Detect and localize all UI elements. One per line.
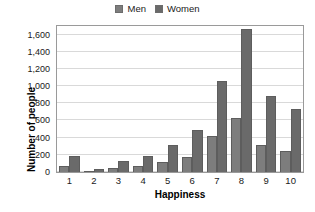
bar-women-5[interactable] [168,145,178,172]
bar-women-2[interactable] [94,169,104,172]
y-tick-label: 1,600 [27,30,50,39]
x-tick-label-9: 9 [254,175,279,187]
bar-group-6 [180,26,205,172]
bar-group-2 [82,26,107,172]
bar-men-5[interactable] [157,162,167,172]
bar-women-1[interactable] [69,156,79,172]
y-tick-label: 200 [35,150,50,159]
bar-groups [57,26,303,172]
bar-group-3 [106,26,131,172]
x-axis-ticks: 12345678910 [57,175,303,187]
bar-group-10 [278,26,303,172]
legend-item-men[interactable]: Men [115,4,145,14]
x-tick-label-4: 4 [131,175,156,187]
x-tick-label-2: 2 [82,175,107,187]
bar-men-4[interactable] [133,166,143,172]
bar-group-8 [229,26,254,172]
y-tick-label: 400 [35,133,50,142]
x-tick-label-7: 7 [205,175,230,187]
chart-legend: MenWomen [0,4,315,14]
legend-swatch-women [155,5,163,13]
bar-group-1 [57,26,82,172]
bar-men-10[interactable] [280,151,290,172]
bar-group-4 [131,26,156,172]
bar-chart: MenWomen 02004006008001,0001,2001,4001,6… [0,0,315,212]
y-tick-label: 600 [35,116,50,125]
legend-swatch-men [115,5,123,13]
bar-women-6[interactable] [192,130,202,172]
x-tick-label-8: 8 [229,175,254,187]
bar-group-5 [155,26,180,172]
bar-group-9 [254,26,279,172]
x-tick-label-3: 3 [106,175,131,187]
x-tick-label-10: 10 [278,175,303,187]
x-tick-label-6: 6 [180,175,205,187]
bar-men-6[interactable] [182,157,192,172]
y-axis-title: Number of people [26,56,37,204]
y-tick-label: 0 [45,168,50,177]
x-axis-title: Happiness [56,189,304,200]
bar-men-1[interactable] [59,166,69,172]
bar-men-8[interactable] [231,118,241,172]
bar-women-10[interactable] [291,109,301,172]
bar-men-9[interactable] [256,145,266,172]
legend-label-men: Men [127,4,145,14]
y-tick-label: 800 [35,99,50,108]
bar-women-4[interactable] [143,156,153,172]
x-tick-label-5: 5 [155,175,180,187]
legend-label-women: Women [167,4,200,14]
bar-women-8[interactable] [241,29,251,172]
x-tick-label-1: 1 [57,175,82,187]
legend-item-women[interactable]: Women [155,4,200,14]
bar-women-7[interactable] [217,81,227,172]
bar-women-3[interactable] [118,161,128,172]
bar-men-3[interactable] [108,168,118,172]
bar-men-7[interactable] [207,136,217,172]
bar-women-9[interactable] [266,96,276,172]
bar-men-2[interactable] [84,171,94,172]
bar-group-7 [205,26,230,172]
